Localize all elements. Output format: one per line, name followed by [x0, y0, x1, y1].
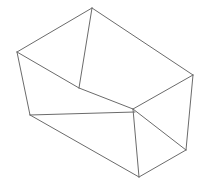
drawing-canvas	[0, 0, 203, 190]
edge-group	[17, 8, 193, 177]
edge-front-vertical	[133, 109, 139, 177]
edge-left-wall-vertical	[17, 52, 30, 115]
edge-rim-back-right	[92, 8, 193, 75]
edge-floor-right-edge	[133, 109, 186, 150]
wireframe-box-figure	[0, 0, 203, 190]
edge-inner-vertical-front	[79, 8, 92, 88]
edge-rim-back-left	[17, 8, 92, 52]
edge-inner-diagonal-left	[17, 52, 79, 88]
edge-front-face-right	[139, 150, 186, 177]
edge-right-wall-vertical	[186, 75, 193, 150]
edge-inner-floor-left	[79, 88, 133, 109]
edge-front-face-left	[30, 115, 139, 177]
edge-inner-floor-right	[133, 75, 193, 109]
edge-floor-front-left	[30, 112, 135, 115]
